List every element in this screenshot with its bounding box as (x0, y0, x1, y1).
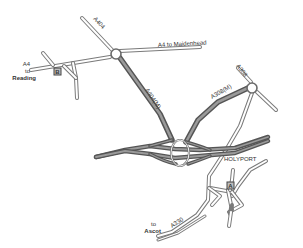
road-a4-west (31, 57, 110, 70)
side-road-south (64, 63, 77, 98)
minor-roads (31, 18, 276, 240)
road-east-a (232, 161, 266, 196)
marker-b[interactable]: B (54, 68, 61, 75)
label-ascot-to: to (151, 221, 157, 227)
marker-a-label: A (228, 183, 233, 189)
label-reading-to: to (25, 68, 31, 74)
road-map: B A A404 A4 to Maidenhead A404(M) A308(M… (0, 0, 303, 248)
roundabout-central (171, 140, 189, 166)
label-reading-road: A4 (23, 61, 31, 67)
label-holyport: HOLYPORT (224, 156, 257, 162)
label-reading: Reading (12, 75, 36, 81)
road-south-stub (229, 212, 231, 226)
label-ascot: Ascot (144, 228, 161, 234)
marker-b-label: B (55, 69, 60, 75)
map-canvas: B A A404 A4 to Maidenhead A404(M) A308(M… (0, 0, 303, 248)
marker-a[interactable]: A (227, 182, 234, 189)
motorway-a404m (120, 58, 172, 140)
roundabout-nw (111, 49, 121, 59)
roundabout-east (247, 83, 257, 93)
side-road-nw (43, 53, 53, 65)
label-a404: A404 (92, 16, 106, 31)
